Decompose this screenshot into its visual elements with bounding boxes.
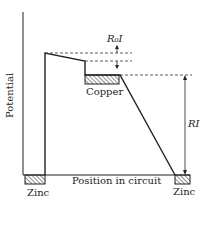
- zinc-left-label: Zinc: [27, 187, 49, 198]
- x-axis-label: Position in circuit: [72, 175, 161, 186]
- external-drop-label: RI: [188, 118, 199, 129]
- copper-electrode: [85, 75, 119, 84]
- zinc-right-electrode: [175, 175, 190, 184]
- y-axis-label: Potential: [4, 73, 15, 118]
- potential-curve: [45, 53, 175, 175]
- internal-drop-label: R₀I: [107, 33, 123, 44]
- zinc-right-label: Zinc: [173, 186, 195, 197]
- zinc-left-electrode: [25, 175, 45, 184]
- copper-label: Copper: [86, 86, 123, 97]
